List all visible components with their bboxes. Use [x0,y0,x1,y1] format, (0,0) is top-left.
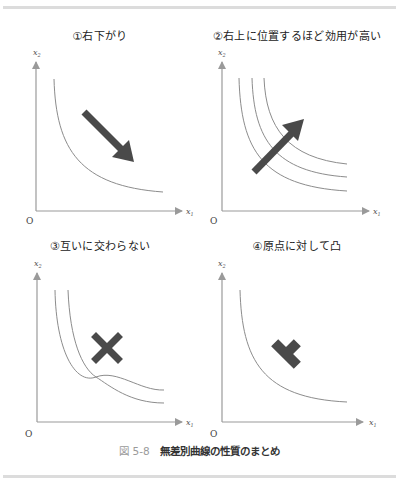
y-axis-label: x2 [218,259,226,269]
panel-1: x2 x1 O [26,48,194,226]
panel-4: x2 x1 O [210,259,377,439]
figure-caption-text: 無差別曲線の性質のまとめ [160,445,280,457]
figure-caption: 図 5-8無差別曲線の性質のまとめ [0,443,399,458]
origin-label: O [26,216,33,226]
origin-label: O [210,216,217,226]
arrow-down-right-icon [84,112,134,162]
origin-label: O [210,429,217,439]
figure-number: 図 5-8 [119,445,150,457]
panel-2: x2 x1 O [210,48,381,226]
diagram-canvas: x2 x1 O x2 x1 O x2 x [0,0,399,482]
indifference-curve-b [68,290,164,403]
bottom-rule [3,475,396,478]
convex-shape-icon [271,331,308,368]
panel-3: x2 x1 O [25,259,194,439]
y-axis-label: x2 [34,259,42,269]
y-axis-label: x2 [218,48,226,58]
x-axis-label: x1 [186,418,194,428]
x-axis-label: x1 [186,207,194,217]
cross-mark-icon [96,337,118,359]
arrow-up-right-icon [254,119,304,172]
y-axis-label: x2 [33,48,41,58]
origin-label: O [25,429,32,439]
x-axis-label: x1 [373,207,381,217]
indifference-curve-a [55,290,164,390]
x-axis-label: x1 [369,418,377,428]
